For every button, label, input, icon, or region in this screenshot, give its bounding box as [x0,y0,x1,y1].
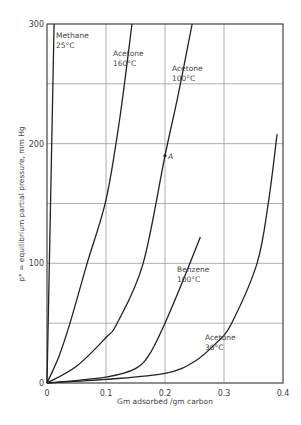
x-tick-label: 0 [44,389,49,398]
point-a-label: A [167,152,173,161]
curve-label: Benzene [177,265,210,274]
curve-labels: Methane25°CAcetone160°CAcetone100°CBenze… [56,31,236,352]
y-tick-label: 0 [39,379,44,388]
y-tick-label: 100 [29,259,44,268]
curve-label: 160°C [113,59,136,68]
curve-label: 30°C [205,343,224,352]
curve-label: Acetone [113,49,144,58]
curve-label: 100°C [172,74,195,83]
x-tick-label: 0.1 [100,389,113,398]
curve-label: Methane [56,31,89,40]
adsorption-isotherm-chart: Methane25°CAcetone160°CAcetone100°CBenze… [0,0,301,425]
y-tick-label: 200 [29,140,44,149]
curve-label: 100°C [177,275,200,284]
curve-label: 25°C [56,41,75,50]
y-axis-label: p* = equilibrium partial pressure, mm Hg [17,126,26,282]
curve-label: Acetone [205,333,236,342]
grid-lines [47,24,283,383]
x-tick-label: 0.4 [277,389,290,398]
x-axis-label: Gm adsorbed /gm carbon [117,397,213,406]
curve-label: Acetone [172,64,203,73]
point-a-marker [163,154,166,157]
y-tick-label: 300 [29,20,44,29]
axis-ticks: 00.10.20.30.40100200300 [29,20,290,398]
x-tick-label: 0.3 [218,389,231,398]
